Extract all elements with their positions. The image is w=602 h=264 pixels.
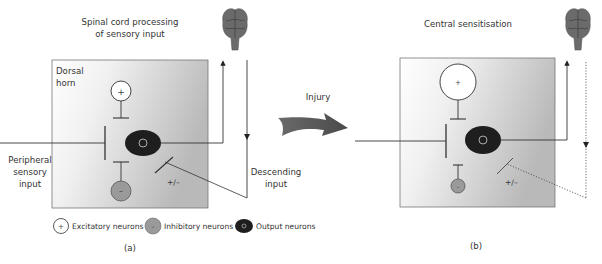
legend-label-output: Output neurons <box>256 222 316 231</box>
descending-label-line1: Descending <box>251 167 302 177</box>
central-sensitisation-diagram: Spinal cord processing of sensory input … <box>0 0 602 264</box>
descending-label-line2: input <box>265 179 288 189</box>
output-neuron-b <box>465 126 501 154</box>
peripheral-label-line1: Peripheral <box>8 155 51 165</box>
legend: + Excitatory neurons – Inhibitory neuron… <box>54 218 316 234</box>
panel-b: Central sensitisation + – <box>355 9 590 251</box>
svg-text:–: – <box>457 183 460 190</box>
injury-transition: Injury <box>278 92 348 136</box>
legend-item-output: Output neurons <box>235 219 316 233</box>
injury-label: Injury <box>306 92 330 102</box>
caption-a: (a) <box>124 243 136 253</box>
brain-icon <box>223 9 248 50</box>
modulation-label-b: +/– <box>505 178 518 187</box>
legend-item-inhibitory: – Inhibitory neurons <box>145 218 233 234</box>
svg-text:+: + <box>117 87 125 97</box>
svg-text:–: – <box>119 187 123 196</box>
output-neuron <box>125 130 161 156</box>
panel-a: Spinal cord processing of sensory input … <box>0 9 301 253</box>
peripheral-label-line3: input <box>19 179 42 189</box>
caption-b: (b) <box>470 241 482 251</box>
dorsal-horn-label-line1: Dorsal <box>56 66 84 76</box>
modulation-label-a: +/– <box>167 178 180 187</box>
legend-item-excitatory: + Excitatory neurons <box>54 219 144 234</box>
dorsal-horn-label-line2: horn <box>56 78 76 88</box>
panel-a-title-line2: of sensory input <box>95 29 165 39</box>
panel-b-title: Central sensitisation <box>424 19 512 29</box>
injury-arrow-icon <box>278 113 348 136</box>
svg-text:+: + <box>455 79 461 87</box>
down-arrowhead-icon <box>244 134 250 140</box>
legend-label-inhibitory: Inhibitory neurons <box>164 222 233 231</box>
down-arrowhead-icon <box>583 142 589 148</box>
panel-a-title-line1: Spinal cord processing <box>82 17 179 27</box>
svg-text:–: – <box>151 223 155 231</box>
peripheral-label-line2: sensory <box>13 167 47 177</box>
brain-icon <box>566 9 591 50</box>
legend-label-excitatory: Excitatory neurons <box>72 222 143 231</box>
svg-text:+: + <box>58 223 64 231</box>
output-legend-icon <box>235 219 253 233</box>
